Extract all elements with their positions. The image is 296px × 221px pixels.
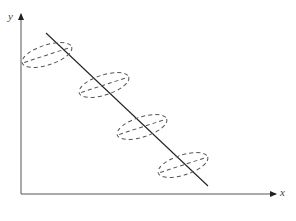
error-ellipse-3 — [114, 109, 170, 144]
error-ellipse-1 — [19, 37, 75, 72]
x-axis-label: x — [280, 186, 285, 198]
diagram-canvas — [0, 0, 296, 221]
y-axis-label: y — [8, 10, 13, 22]
error-ellipse-2 — [76, 67, 132, 102]
error-ellipse-4 — [155, 147, 211, 182]
regression-line — [46, 33, 208, 186]
